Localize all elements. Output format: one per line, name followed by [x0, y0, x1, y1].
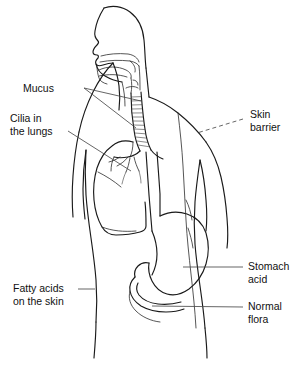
label-mucus: Mucus	[23, 82, 54, 95]
stomach-lesser-curvature	[152, 231, 157, 275]
hip-left	[94, 322, 96, 358]
bronchiole-1	[122, 172, 126, 184]
scapula-line-2	[188, 228, 193, 248]
bronchus-branch-1	[117, 157, 128, 166]
pharynx-front	[131, 78, 132, 93]
arm-left-outer	[72, 132, 79, 217]
epiglottis	[133, 80, 138, 85]
head-profile-group	[93, 6, 149, 97]
label-fatty-acids-on-the-skin: Fatty acidson the skin	[13, 282, 64, 307]
label-fatty-acids-line-2: on the skin	[13, 295, 64, 307]
leader-skin-barrier	[197, 119, 243, 133]
pharynx-back	[139, 66, 140, 90]
bronchiole-2	[139, 171, 141, 183]
hard-palate	[100, 60, 139, 66]
lung-cardiac-notch	[130, 142, 133, 157]
scapula-line	[186, 200, 192, 220]
label-fatty-acids-line-1: Fatty acids	[13, 282, 64, 294]
head-profile	[93, 8, 113, 66]
label-normal-flora-line-2: flora	[248, 313, 268, 325]
label-skin-barrier-line-1: Skin	[250, 108, 270, 120]
leader-normal-flora	[152, 306, 243, 307]
neck-back	[146, 68, 149, 97]
label-normal-flora: Normalflora	[248, 300, 282, 325]
arm-right-inner	[200, 160, 207, 231]
intestine-group	[129, 277, 184, 322]
label-cilia-line-2: the lungs	[10, 125, 53, 137]
hip-right	[205, 328, 207, 358]
label-cilia-line-1: Cilia in	[10, 112, 42, 124]
skull-back	[104, 6, 146, 68]
left-lung-outline	[94, 141, 146, 235]
intestine-loop-inner	[137, 283, 181, 304]
arm-right-outer	[206, 142, 228, 248]
neck-group	[113, 63, 125, 110]
bronchial-tree	[109, 150, 163, 184]
intestine-loop-lower	[129, 291, 160, 322]
upper-airway-group	[97, 54, 140, 93]
esophagus-group	[146, 152, 160, 231]
label-stomach-acid-line-2: acid	[248, 273, 267, 285]
label-normal-flora-line-1: Normal	[248, 300, 282, 312]
leader-cilia	[68, 131, 131, 171]
lung-base	[102, 227, 136, 231]
esophagus-left-wall	[146, 152, 152, 231]
bronchus-branch-3	[134, 157, 139, 171]
torso-right-flank	[194, 160, 205, 328]
spine-line	[178, 113, 196, 328]
trachea-cartilage-rings	[131, 97, 149, 147]
label-stomach-acid: Stomachacid	[248, 260, 289, 285]
label-skin-barrier-line-2: barrier	[250, 121, 280, 133]
carina	[114, 151, 140, 158]
neck-front-inner	[122, 82, 125, 106]
esophagus-right-wall	[157, 152, 160, 216]
neck-front	[113, 63, 120, 110]
label-cilia-in-the-lungs: Cilia inthe lungs	[10, 112, 53, 137]
defense-mechanisms-diagram: Mucus Cilia inthe lungs Skinbarrier Stom…	[0, 0, 305, 369]
shoulder-right	[149, 97, 206, 142]
left-lung-group	[94, 141, 146, 235]
lung-fissure	[98, 172, 121, 187]
label-stomach-acid-line-1: Stomach	[248, 260, 289, 272]
label-skin-barrier: Skinbarrier	[250, 108, 280, 133]
pylorus	[135, 263, 149, 277]
